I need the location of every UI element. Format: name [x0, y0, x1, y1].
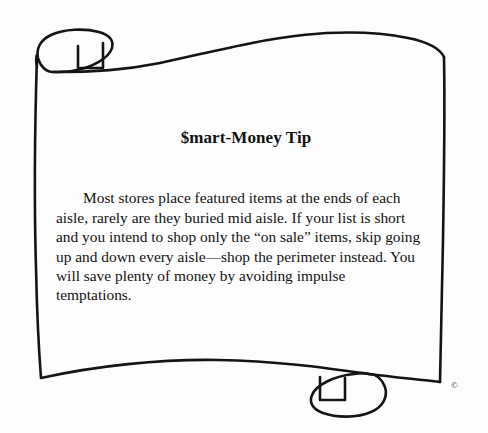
copyright-icon: © — [451, 381, 458, 390]
tip-title: $mart-Money Tip — [56, 128, 436, 148]
scroll-content: $mart-Money Tip Most stores place featur… — [0, 0, 488, 433]
scroll-figure: $mart-Money Tip Most stores place featur… — [0, 0, 488, 433]
tip-body-text: Most stores place featured items at the … — [56, 188, 424, 304]
